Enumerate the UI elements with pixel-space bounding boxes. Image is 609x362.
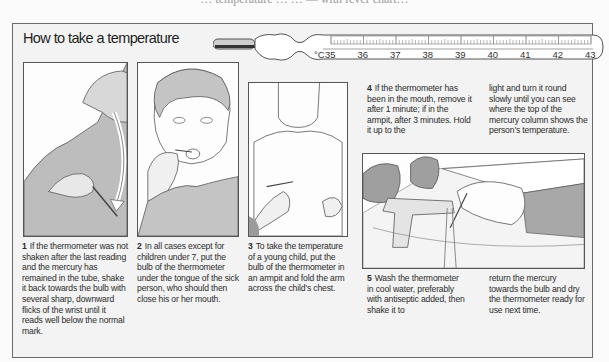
thermometer-scale-label: 37 bbox=[390, 49, 401, 60]
thermometer-scale-label: 35 bbox=[325, 49, 336, 60]
step-text: light and turn it round slowly until you… bbox=[489, 83, 588, 135]
step-text: If the thermometer has been in the mouth… bbox=[367, 83, 472, 135]
thermometer-scale-labels: °C353637383940414243 bbox=[213, 27, 605, 69]
step-number: 2 bbox=[137, 241, 142, 251]
thermometer-scale-label: 39 bbox=[455, 49, 466, 60]
oral-thermometer-illustration bbox=[137, 62, 239, 237]
step-number: 1 bbox=[22, 241, 27, 251]
washing-thermometer-illustration bbox=[362, 153, 585, 269]
step-2-caption: 2In all cases except for children under … bbox=[137, 241, 243, 305]
step-5-caption-col1: 5Wash the thermometer in cool water, pre… bbox=[367, 273, 465, 315]
thermometer-scale-label: 36 bbox=[358, 49, 369, 60]
armpit-thermometer-illustration bbox=[248, 82, 348, 237]
step-number: 4 bbox=[367, 83, 372, 93]
step-text: To take the temperature of a young child… bbox=[248, 241, 344, 293]
step-text: Wash the thermometer in cool water, pref… bbox=[367, 273, 465, 315]
step-number: 5 bbox=[367, 273, 372, 283]
thermometer-scale-label: 38 bbox=[423, 49, 434, 60]
step-text: return the mercury towards the bulb and … bbox=[489, 273, 585, 315]
thermometer-scale-label: 41 bbox=[520, 49, 531, 60]
step-3-caption: 3To take the temperature of a young chil… bbox=[248, 241, 352, 294]
step-text: If the thermometer was not shaken after … bbox=[22, 241, 128, 336]
step-1-caption: 1If the thermometer was not shaken after… bbox=[22, 241, 128, 336]
clinical-thermometer-icon: °C353637383940414243 bbox=[213, 27, 605, 69]
cut-off-page-header: … temperature … … — with fever chart… bbox=[0, 0, 609, 4]
page-title: How to take a temperature bbox=[23, 30, 179, 46]
thermometer-scale-label: 43 bbox=[585, 49, 596, 60]
step-4-caption-col1: 4If the thermometer has been in the mout… bbox=[367, 83, 472, 136]
step-5-caption-col2: return the mercury towards the bulb and … bbox=[489, 273, 587, 315]
thermometer-scale-label: 40 bbox=[488, 49, 499, 60]
step-number: 3 bbox=[248, 241, 253, 251]
shaking-thermometer-illustration bbox=[23, 62, 128, 237]
thermometer-scale-label: 42 bbox=[553, 49, 564, 60]
thermometer-unit-label: °C bbox=[314, 49, 325, 60]
step-text: In all cases except for children under 7… bbox=[137, 241, 239, 304]
step-4-caption-col2: light and turn it round slowly until you… bbox=[489, 83, 589, 136]
